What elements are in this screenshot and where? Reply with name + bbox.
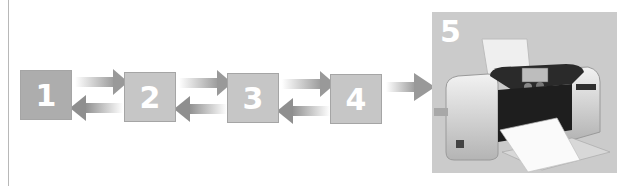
arrow-right-3-4	[282, 71, 335, 97]
arrow-left-3-2	[174, 96, 227, 122]
step-number: 3	[243, 81, 264, 116]
step-panel-5: 5	[432, 12, 617, 173]
step-box-1: 1	[20, 70, 72, 120]
arrow-right-2-3	[179, 70, 232, 96]
step-box-4: 4	[330, 74, 382, 124]
step-box-3: 3	[227, 73, 279, 123]
arrow-right-4-5	[386, 73, 435, 101]
step-number: 5	[440, 14, 461, 49]
arrow-right-1-2	[75, 69, 128, 95]
step-box-2: 2	[124, 72, 176, 122]
arrow-left-2-1	[70, 95, 123, 121]
step-number: 4	[346, 82, 367, 117]
step-number: 2	[140, 80, 161, 115]
step-number: 1	[36, 78, 57, 113]
arrow-left-4-3	[277, 98, 330, 124]
